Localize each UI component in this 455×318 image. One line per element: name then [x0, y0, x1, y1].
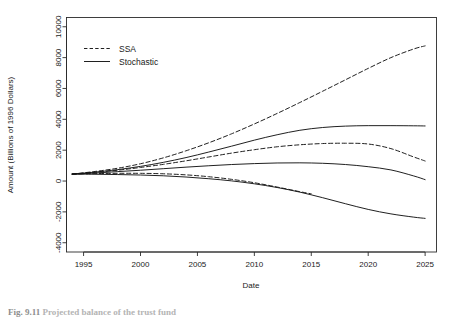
line-chart: -4000-20000200040006000800010000 1995200… [0, 0, 455, 318]
x-tick-label: 2025 [416, 260, 434, 269]
x-tick-label: 2005 [189, 260, 207, 269]
x-axis-title: Date [243, 281, 260, 290]
caption-number: Fig. 9.11 [8, 307, 40, 317]
x-tick-label: 2000 [132, 260, 150, 269]
figure-container: -4000-20000200040006000800010000 1995200… [0, 0, 455, 318]
x-tick-label: 1995 [75, 260, 93, 269]
y-tick-label: 0 [54, 178, 63, 183]
caption-text: Projected balance of the trust fund [43, 307, 177, 317]
figure-caption: Fig. 9.11 Projected balance of the trust… [8, 307, 448, 318]
legend-label-ssa: SSA [119, 44, 136, 54]
x-tick-label: 2020 [359, 260, 377, 269]
y-tick-label: 10000 [54, 15, 63, 38]
y-tick-label: 6000 [54, 79, 63, 97]
x-tick-label: 2010 [245, 260, 263, 269]
y-tick-label: 4000 [54, 110, 63, 128]
chart-background [0, 0, 455, 318]
y-tick-label: -4000 [54, 232, 63, 253]
legend-label-stochastic: Stochastic [119, 57, 159, 67]
y-axis-title: Amount (Billions of 1996 Dollars) [6, 76, 15, 193]
y-tick-label: 8000 [54, 48, 63, 66]
x-tick-label: 2015 [302, 260, 320, 269]
y-tick-label: 2000 [54, 141, 63, 159]
y-tick-label: -2000 [54, 201, 63, 222]
